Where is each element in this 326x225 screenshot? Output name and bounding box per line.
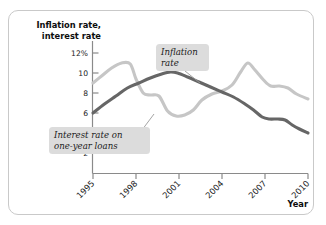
x-axis-title: Year (286, 199, 308, 209)
x-tick-label-2001: 2001 (160, 178, 182, 200)
interest-callout-line2: one-year loans (54, 141, 118, 151)
x-tick-label-2010: 2010 (289, 178, 311, 200)
x-tick-label-1995: 1995 (74, 178, 96, 200)
y-axis-title-line2: interest rate (42, 31, 102, 41)
inflation-callout-line1: Inflation (160, 47, 198, 57)
x-tick-label-2004: 2004 (203, 178, 225, 200)
chart-plot-area: Inflation rate, interest rate 12% 10 8 6… (9, 11, 315, 216)
inflation-callout-line2: rate (161, 58, 179, 68)
y-axis-title-line1: Inflation rate, (37, 20, 101, 30)
x-tick-label-1998: 1998 (117, 178, 139, 200)
y-tick-label-8: 8 (83, 89, 88, 98)
y-tick-label-6: 6 (83, 109, 88, 118)
line-chart-svg: Inflation rate, interest rate 12% 10 8 6… (9, 11, 315, 216)
x-axis-ticks (93, 174, 308, 180)
x-tick-label-2007: 2007 (246, 178, 268, 200)
y-tick-label-12: 12% (71, 49, 88, 58)
y-tick-label-10: 10 (78, 69, 88, 78)
chart-figure-frame: Inflation rate, interest rate 12% 10 8 6… (8, 10, 314, 215)
interest-callout-line1: Interest rate on (53, 130, 122, 140)
